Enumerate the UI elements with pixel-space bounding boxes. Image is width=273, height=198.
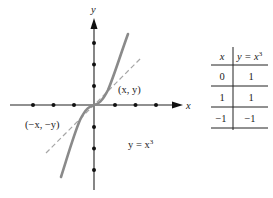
x-axis-arrow-icon [172,102,183,109]
table-cell-x: 0 [219,71,224,82]
y-axis-label: y [90,4,96,15]
table-cell-y: 1 [248,92,253,103]
table-cell-x: −1 [215,113,226,124]
curve-equation-label: y = x3 [128,138,154,150]
table-header-x: x [219,51,225,62]
values-table: x y = x3 0 1 1 1 −1 −1 [211,47,268,130]
table-cell-x: 1 [219,92,224,103]
point-label-negative: (−x, −y) [25,119,60,131]
table-cell-y: −1 [244,113,255,124]
point-label-positive: (x, y) [118,84,141,96]
cubic-function-diagram: y x (x, y) (−x, −y) y = x3 x y = x3 0 1 … [0,0,273,198]
x-axis-label: x [185,100,191,111]
y-axis-arrow-icon [91,18,98,29]
table-header-y: y = x3 [236,50,263,62]
table-cell-y: 1 [248,71,253,82]
